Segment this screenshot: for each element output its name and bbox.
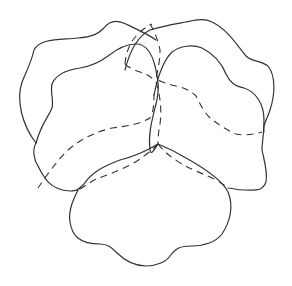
side-left-petal [36, 44, 158, 152]
lower-petal [34, 143, 231, 266]
pansy-drawing [0, 0, 292, 286]
back-left-petal [20, 21, 156, 143]
hidden-edge-top-right [150, 24, 262, 135]
back-right-petal [125, 20, 274, 132]
hidden-edge-left [38, 94, 154, 188]
hidden-edge-bottom-right [158, 144, 228, 188]
pansy-illustration [0, 0, 292, 286]
side-right-petal [154, 46, 267, 190]
hidden-edge-upper-left-inner [125, 64, 154, 80]
